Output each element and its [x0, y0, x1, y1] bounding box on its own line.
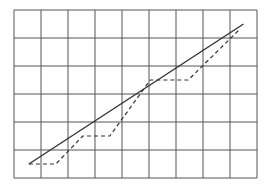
line-chart — [0, 0, 270, 187]
